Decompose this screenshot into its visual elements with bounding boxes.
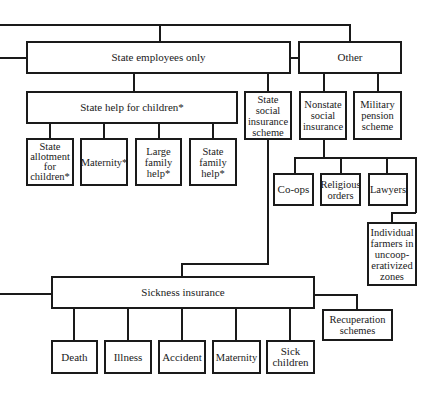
connector bbox=[133, 73, 135, 91]
node-lawyers: Lawyers bbox=[368, 173, 408, 206]
node-illness: Illness bbox=[104, 340, 152, 374]
connector bbox=[0, 293, 51, 295]
connector bbox=[391, 212, 416, 214]
node-sick-children: Sick children bbox=[266, 340, 315, 374]
connector bbox=[181, 263, 183, 276]
node-coops: Co-ops bbox=[273, 173, 314, 206]
connector bbox=[340, 157, 342, 173]
node-other: Other bbox=[298, 41, 402, 74]
node-nonstate-social-insurance: Nonstate social insurance bbox=[299, 91, 347, 140]
node-state-help-children: State help for children* bbox=[26, 91, 238, 124]
connector bbox=[290, 57, 298, 59]
connector bbox=[391, 212, 393, 222]
connector bbox=[0, 57, 26, 59]
node-accident: Accident bbox=[158, 340, 206, 374]
connector bbox=[158, 123, 160, 138]
connector bbox=[181, 263, 269, 265]
connector bbox=[0, 24, 351, 26]
connector bbox=[49, 123, 51, 138]
node-military-pension: Military pension scheme bbox=[353, 91, 402, 140]
connector bbox=[267, 139, 269, 264]
connector bbox=[294, 157, 296, 173]
node-recuperation: Recuperation schemes bbox=[322, 309, 393, 341]
connector bbox=[267, 73, 269, 91]
node-individual-farmers: Individual farmers in uncoop- erativized… bbox=[367, 222, 417, 286]
node-maternity: Maternity bbox=[212, 340, 261, 374]
connector bbox=[377, 73, 379, 91]
connector bbox=[294, 157, 417, 159]
node-state-social-insurance: State social insurance scheme bbox=[244, 91, 292, 140]
connector bbox=[356, 294, 358, 309]
node-large-family: Large family help* bbox=[135, 138, 182, 186]
connector bbox=[323, 73, 325, 91]
connector bbox=[181, 308, 183, 340]
connector bbox=[386, 157, 388, 173]
connector bbox=[323, 139, 325, 157]
connector bbox=[103, 123, 105, 138]
node-sickness-insurance: Sickness insurance bbox=[51, 276, 315, 309]
connector bbox=[73, 308, 75, 340]
connector bbox=[212, 123, 214, 138]
connector bbox=[235, 308, 237, 340]
connector bbox=[127, 308, 129, 340]
connector bbox=[289, 308, 291, 340]
node-state-family: State family help* bbox=[189, 138, 237, 186]
node-religious-orders: Religious orders bbox=[320, 173, 361, 206]
connector bbox=[349, 24, 351, 41]
node-state-employees: State employees only bbox=[26, 41, 291, 74]
node-state-allotment: State allotment for children* bbox=[26, 138, 74, 186]
connector bbox=[159, 24, 161, 41]
connector bbox=[314, 294, 357, 296]
node-maternity-child: Maternity* bbox=[80, 138, 128, 186]
connector bbox=[415, 157, 417, 213]
node-death: Death bbox=[51, 340, 98, 374]
